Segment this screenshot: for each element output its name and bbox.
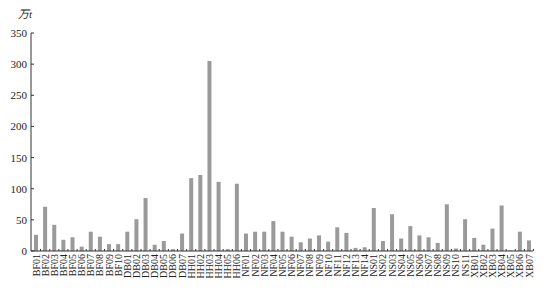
bar-nf10 (326, 242, 330, 251)
bar-hh06 (235, 184, 239, 251)
bar-db07 (180, 234, 184, 251)
bar-nf14 (363, 247, 367, 251)
bar-ns09 (445, 204, 449, 251)
y-tick-label: 300 (11, 58, 28, 70)
y-tick-label: 250 (11, 89, 28, 101)
bar-db03 (144, 198, 148, 251)
bar-nf02 (253, 232, 257, 251)
bar-xb07 (527, 240, 531, 251)
y-tick-label: 50 (16, 214, 28, 226)
bar-bf03 (52, 225, 56, 251)
x-tick-label: XB07 (524, 254, 535, 278)
y-tick-label: 200 (11, 120, 28, 132)
x-axis: BF01BF02BF03BF04BF05BF06BF07BF08BF09BF10… (31, 249, 535, 278)
bar-ns01 (372, 208, 376, 251)
y-axis: 050100150200250300350 (11, 27, 35, 257)
bar-bf04 (61, 240, 65, 251)
bar-bf09 (107, 244, 111, 251)
bar-hh02 (198, 175, 202, 251)
bar-xb04 (500, 206, 504, 251)
bar-nf07 (299, 242, 303, 251)
bar-bf10 (116, 244, 120, 251)
bar-chart: 万t 050100150200250300350 BF01BF02BF03BF0… (0, 0, 546, 291)
bar-hh01 (189, 178, 193, 251)
bar-ns07 (427, 237, 431, 251)
y-axis-unit-label: 万t (18, 8, 33, 20)
bar-hh04 (217, 182, 221, 251)
bar-xb03 (490, 229, 494, 251)
bar-db04 (153, 245, 157, 251)
bar-nf05 (281, 232, 285, 251)
bar-ns04 (399, 239, 403, 251)
bar-xb02 (481, 245, 485, 251)
bar-hh03 (207, 61, 211, 251)
bar-ns11 (463, 219, 467, 251)
bar-ns02 (381, 241, 385, 251)
bar-nf04 (271, 221, 275, 251)
bar-db01 (125, 232, 129, 251)
bar-nf11 (335, 227, 339, 251)
bar-nf01 (244, 234, 248, 251)
y-tick-label: 350 (11, 27, 28, 39)
bar-bf07 (89, 232, 93, 251)
bar-db02 (134, 219, 138, 251)
bar-bf01 (34, 235, 38, 251)
bar-bf06 (80, 247, 84, 251)
bar-ns05 (408, 226, 412, 251)
bar-ns06 (417, 235, 421, 251)
y-tick-label: 0 (22, 245, 28, 257)
bar-bf02 (43, 207, 47, 251)
bar-nf08 (308, 239, 312, 251)
bar-bf08 (98, 237, 102, 251)
bar-nf09 (317, 235, 321, 251)
bar-xb06 (518, 232, 522, 251)
bar-bf05 (71, 237, 75, 251)
y-tick-label: 150 (11, 152, 28, 164)
bars (34, 61, 531, 251)
bar-xb01 (472, 238, 476, 251)
bar-nf06 (290, 237, 294, 251)
bar-nf12 (344, 233, 348, 251)
bar-ns03 (390, 214, 394, 251)
y-tick-label: 100 (11, 183, 28, 195)
bar-db05 (162, 241, 166, 251)
bar-nf03 (262, 232, 266, 251)
bar-ns08 (436, 243, 440, 251)
